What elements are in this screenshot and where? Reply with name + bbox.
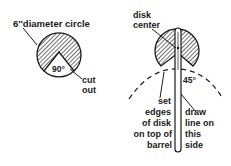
- angle-90-label: 90°: [52, 64, 65, 74]
- title-leader-line: [23, 28, 37, 45]
- cutout-leader-line: [70, 69, 82, 79]
- set-edges-label-line1: set: [158, 96, 171, 106]
- right-figure: disk center 45° set edges of disk on top…: [129, 10, 223, 152]
- angle-45-label: 45°: [183, 75, 196, 85]
- set-edges-label-line4: on top of: [134, 129, 173, 139]
- disk-center-dot: [177, 47, 179, 49]
- draw-line-label-line2: line on: [185, 118, 214, 128]
- draw-line-label-line1: draw: [185, 107, 207, 117]
- set-edges-leader-line: [160, 72, 164, 98]
- disk-cutting-diagram: 6″diameter circle 90° cut out disk cente…: [0, 0, 231, 166]
- circle-size-label: 6″diameter circle: [13, 18, 90, 29]
- set-edges-label-line3: of disk: [142, 118, 172, 128]
- set-edges-label-line5: barrel: [147, 140, 172, 150]
- disk-center-label-line2: center: [133, 20, 161, 30]
- cutout-label-line2: out: [82, 85, 96, 95]
- draw-line-label-line4: side: [185, 140, 203, 150]
- set-edges-label-line2: edges: [145, 107, 171, 117]
- draw-line-label-line3: this: [185, 129, 201, 139]
- left-figure: 6″diameter circle 90° cut out: [13, 18, 96, 95]
- cutout-label-line1: cut: [82, 75, 96, 85]
- disk-center-label-line1: disk: [133, 10, 152, 20]
